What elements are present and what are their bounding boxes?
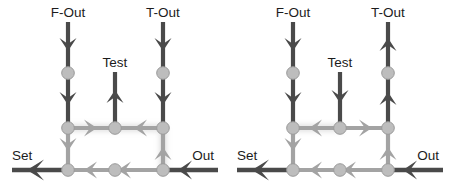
node-bot-left — [62, 164, 75, 177]
edge-test-up — [107, 72, 124, 128]
node-mid-left — [287, 122, 300, 135]
edge-mid-center-to-right — [340, 120, 388, 137]
label-set: Set — [237, 148, 258, 163]
label-test: Test — [103, 55, 128, 70]
node-bot-right — [382, 164, 395, 177]
node-mid-center — [334, 122, 347, 135]
label-set: Set — [12, 148, 33, 163]
node-f-mid — [62, 67, 75, 80]
node-bot-center — [109, 164, 122, 177]
right-diagram-panel: F-Out T-Out Test Set Out — [225, 0, 450, 192]
node-bot-right — [157, 164, 170, 177]
node-bot-left — [287, 164, 300, 177]
label-out: Out — [417, 148, 439, 163]
left-diagram-panel: F-Out T-Out Test Set Out — [0, 0, 225, 192]
edge-out-in — [388, 161, 443, 180]
node-mid-right — [157, 122, 170, 135]
label-f-out: F-Out — [276, 5, 311, 20]
node-bot-center — [334, 164, 347, 177]
label-f-out: F-Out — [51, 5, 86, 20]
edge-bottom-right-seg — [115, 162, 163, 179]
node-mid-center — [109, 122, 122, 135]
label-t-out: T-Out — [371, 5, 405, 20]
edge-bottom-center-seg — [293, 162, 340, 179]
edge-test-down — [332, 72, 349, 128]
label-t-out: T-Out — [146, 5, 180, 20]
edge-mid-left-to-center — [68, 120, 115, 137]
node-t-mid — [157, 67, 170, 80]
edge-bottom-right-seg — [340, 162, 388, 179]
label-test: Test — [328, 55, 353, 70]
edge-mid-center-to-left — [293, 120, 340, 137]
node-mid-right — [382, 122, 395, 135]
edge-bottom-center-seg — [68, 162, 115, 179]
label-out: Out — [192, 148, 214, 163]
diagram-canvas: F-Out T-Out Test Set Out — [0, 0, 450, 192]
edge-out-in — [163, 161, 218, 180]
edge-mid-right-to-center — [115, 120, 163, 137]
node-t-mid — [382, 67, 395, 80]
node-mid-left — [62, 122, 75, 135]
node-f-mid — [287, 67, 300, 80]
